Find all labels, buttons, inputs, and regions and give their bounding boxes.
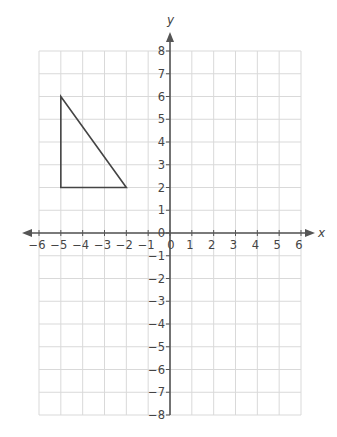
- y-tick-label: −7: [148, 385, 165, 399]
- x-tick-label: 1: [186, 238, 193, 252]
- y-tick-label: 0: [158, 226, 165, 240]
- y-tick-label: 7: [158, 67, 165, 81]
- x-tick-label: −4: [72, 238, 89, 252]
- x-axis-right-arrow-icon: [305, 229, 315, 237]
- coordinate-plane: −6−5−4−3−2−11234560−8−7−6−5−4−3−2−101234…: [0, 0, 337, 437]
- y-tick-label: 8: [158, 44, 165, 58]
- x-axis-left-arrow-icon: [22, 229, 32, 237]
- x-axis-label: x: [317, 226, 326, 240]
- y-axis-up-arrow-icon: [166, 32, 174, 42]
- y-tick-label: −1: [148, 249, 165, 263]
- axes: [22, 32, 315, 415]
- x-tick-label: −6: [29, 238, 46, 252]
- y-tick-label: 5: [158, 112, 165, 126]
- y-tick-label: −6: [148, 363, 165, 377]
- y-tick-label: −8: [148, 408, 165, 422]
- x-tick-label: −2: [116, 238, 133, 252]
- y-tick-label: 1: [158, 203, 165, 217]
- x-tick-label: 5: [274, 238, 281, 252]
- y-tick-label: 6: [158, 90, 165, 104]
- y-tick-label: −3: [148, 294, 165, 308]
- x-tick-label-origin: 0: [167, 238, 174, 252]
- y-tick-label: 2: [158, 181, 165, 195]
- y-tick-label: 3: [158, 158, 165, 172]
- x-tick-label: −5: [50, 238, 67, 252]
- x-tick-label: 2: [208, 238, 215, 252]
- y-axis-label: y: [166, 13, 175, 27]
- x-tick-label: 6: [295, 238, 302, 252]
- y-tick-label: −4: [148, 317, 165, 331]
- y-tick-label: −2: [148, 272, 165, 286]
- y-tick-label: 4: [158, 135, 165, 149]
- y-tick-label: −5: [148, 340, 165, 354]
- x-tick-label: 3: [230, 238, 237, 252]
- x-tick-label: 4: [252, 238, 259, 252]
- x-tick-label: −3: [94, 238, 111, 252]
